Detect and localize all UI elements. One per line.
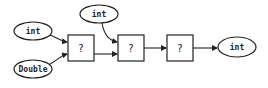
type-flow-diagram: int Double int ? ? ? int [0, 0, 268, 88]
node-unknown-2: ? [118, 35, 144, 61]
edge-int-top-to-node2 [102, 23, 117, 42]
output-int-label: int [230, 42, 245, 52]
input-int-top: int [80, 5, 118, 23]
node-unknown-1: ? [68, 35, 94, 61]
input-int-left-label: int [26, 26, 41, 36]
edge-double-to-node1 [50, 54, 67, 64]
node-unknown-1-label: ? [78, 43, 83, 54]
output-int: int [218, 37, 256, 57]
node-unknown-3: ? [167, 35, 193, 61]
node-unknown-3-label: ? [177, 43, 182, 54]
node-unknown-2-label: ? [128, 43, 133, 54]
edge-int-to-node1 [50, 35, 67, 42]
input-double-label: Double [19, 65, 48, 74]
input-int-top-label: int [92, 9, 107, 19]
input-double: Double [14, 60, 52, 78]
input-int-left: int [14, 22, 52, 40]
